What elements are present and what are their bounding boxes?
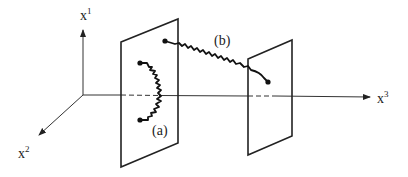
left-brane-plane	[121, 19, 178, 167]
axes	[39, 30, 370, 135]
x3-label: x3	[377, 89, 389, 106]
string-a-path	[140, 63, 161, 120]
x2-label: x2	[18, 144, 30, 161]
brane-diagram: x1 x2 x3 (a) (b)	[0, 0, 408, 177]
string-a-label: (a)	[152, 123, 168, 139]
x3-axis-segment-2	[159, 96, 248, 97]
axis-labels: x1 x2 x3	[18, 6, 389, 161]
string-a-endpoint-bottom	[137, 117, 142, 122]
string-a-endpoint-top	[137, 60, 142, 65]
string-b-endpoint-left	[162, 38, 167, 43]
string-b-endpoint-right	[265, 79, 270, 84]
string-a: (a)	[137, 60, 167, 139]
x2-axis	[39, 95, 83, 135]
x3-axis-dashed-1	[121, 95, 159, 96]
right-brane-plane	[248, 40, 292, 155]
x3-axis-segment-3	[275, 96, 370, 97]
x1-label: x1	[80, 6, 92, 23]
string-b-label: (b)	[214, 33, 231, 49]
